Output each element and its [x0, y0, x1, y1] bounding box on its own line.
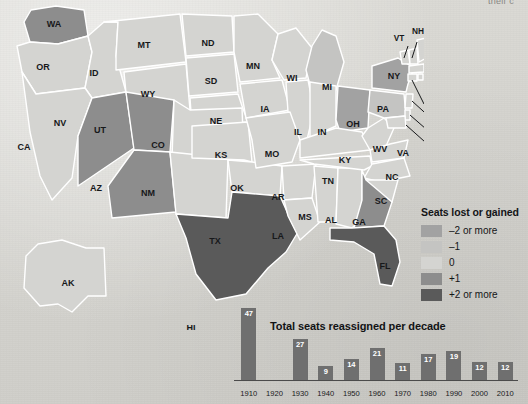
state-label-NC: NC — [386, 172, 399, 182]
tick-label-1960: 1960 — [364, 389, 390, 398]
state-label-UT: UT — [94, 125, 106, 135]
legend-swatch-plus1 — [421, 273, 442, 285]
state-label-WV: WV — [373, 144, 388, 154]
state-label-CO: CO — [151, 140, 165, 150]
bar-value-2000: 12 — [472, 363, 487, 372]
legend-swatch-zero — [421, 257, 442, 269]
bar-chart-tick-labels: 1910192019301940195019601970198019902000… — [236, 383, 518, 398]
state-MD[interactable] — [386, 116, 406, 128]
legend-label-plus1: +1 — [449, 274, 460, 284]
state-label-VT: VT — [394, 33, 405, 43]
state-SD[interactable] — [186, 54, 238, 96]
state-label-IL: IL — [294, 127, 303, 137]
cut-off-caption-text: their c — [488, 0, 514, 6]
state-label-WA: WA — [47, 19, 62, 29]
state-label-SD: SD — [205, 76, 218, 86]
state-MN[interactable] — [234, 14, 280, 82]
state-label-KY: KY — [339, 155, 352, 165]
legend-item-minus1: –1 — [421, 240, 525, 254]
map-legend: Seats lost or gained –2 or more –1 0 +1 … — [421, 206, 525, 304]
state-label-WY: WY — [141, 89, 156, 99]
tick-label-1920: 1920 — [261, 389, 287, 398]
bar-value-2010: 12 — [498, 363, 513, 372]
state-label-GA: GA — [352, 217, 366, 227]
bar-value-1950: 14 — [344, 360, 359, 369]
legend-item-plus1: +1 — [421, 272, 525, 286]
state-label-ND: ND — [202, 38, 215, 48]
state-label-MO: MO — [265, 149, 280, 159]
bar-chart-axis-line — [234, 380, 518, 381]
state-label-NH: NH — [412, 26, 424, 36]
state-label-ID: ID — [90, 68, 100, 78]
state-label-CA: CA — [18, 142, 31, 152]
state-AR[interactable] — [282, 164, 316, 200]
state-label-NE: NE — [210, 116, 223, 126]
state-label-NY: NY — [388, 71, 401, 81]
bar-value-1990: 19 — [446, 352, 461, 361]
bar-value-1940: 9 — [318, 367, 333, 376]
state-label-AK: AK — [62, 278, 75, 288]
state-label-IN: IN — [318, 127, 327, 137]
leader-line-CT — [412, 80, 424, 104]
tick-label-1990: 1990 — [441, 389, 467, 398]
leader-line-DE — [410, 115, 424, 136]
state-label-NV: NV — [54, 118, 67, 128]
legend-label-minus1: –1 — [449, 242, 460, 252]
state-label-OK: OK — [230, 183, 244, 193]
legend-label-minus2: –2 or more — [449, 226, 497, 236]
state-RI[interactable] — [418, 74, 423, 80]
state-label-TX: TX — [209, 236, 221, 246]
state-label-PA: PA — [377, 104, 389, 114]
state-label-NM: NM — [141, 188, 155, 198]
state-AK[interactable] — [24, 240, 106, 312]
legend-item-zero: 0 — [421, 256, 525, 270]
bar-rect-1910 — [241, 308, 256, 380]
state-FL[interactable] — [330, 226, 400, 286]
legend-swatch-minus2 — [421, 225, 442, 237]
tick-label-2000: 2000 — [467, 389, 493, 398]
tick-label-1910: 1910 — [236, 389, 262, 398]
map-state-shapes — [17, 6, 424, 326]
state-label-IA: IA — [261, 104, 271, 114]
bar-chart-bars: 4727914211117191212 — [236, 308, 518, 380]
state-label-AR: AR — [272, 192, 285, 202]
tick-label-1970: 1970 — [390, 389, 416, 398]
state-label-MT: MT — [138, 40, 151, 50]
bar-value-1970: 11 — [395, 364, 410, 373]
state-MA[interactable] — [409, 64, 424, 73]
state-NJ[interactable] — [405, 94, 413, 108]
figure-root: their c — [0, 0, 528, 404]
legend-item-minus2: –2 or more — [421, 224, 525, 238]
state-label-FL: FL — [380, 261, 391, 271]
state-NH[interactable] — [409, 48, 418, 64]
state-AZ[interactable] — [108, 150, 176, 218]
legend-label-zero: 0 — [449, 258, 455, 268]
state-UT[interactable] — [126, 92, 174, 152]
state-MS[interactable] — [314, 166, 338, 222]
bar-value-1910: 47 — [241, 309, 256, 318]
state-label-MS: MS — [298, 212, 312, 222]
state-label-OR: OR — [36, 62, 50, 72]
state-label-VA: VA — [397, 148, 409, 158]
state-label-AZ: AZ — [90, 183, 102, 193]
state-label-SC: SC — [375, 196, 388, 206]
tick-label-2010: 2010 — [492, 389, 518, 398]
state-ME[interactable] — [417, 38, 424, 62]
bar-chart: Total seats reassigned per decade 472791… — [228, 298, 520, 400]
state-label-MN: MN — [246, 61, 260, 71]
tick-label-1980: 1980 — [415, 389, 441, 398]
state-ND[interactable] — [182, 14, 234, 56]
bar-value-1960: 21 — [370, 349, 385, 358]
state-label-WI: WI — [287, 73, 298, 83]
state-MO[interactable] — [246, 112, 300, 168]
state-label-TN: TN — [322, 176, 334, 186]
tick-label-1940: 1940 — [313, 389, 339, 398]
legend-swatch-minus1 — [421, 241, 442, 253]
tick-label-1930: 1930 — [287, 389, 313, 398]
bar-value-1980: 17 — [421, 355, 436, 364]
state-label-KS: KS — [215, 150, 228, 160]
leader-line-MD — [406, 125, 424, 150]
state-NM[interactable] — [170, 152, 228, 218]
us-map-svg: WA OR ID MT WY ND SD NE MN IA WI MI IL I… — [0, 0, 424, 330]
state-label-LA: LA — [272, 231, 284, 241]
